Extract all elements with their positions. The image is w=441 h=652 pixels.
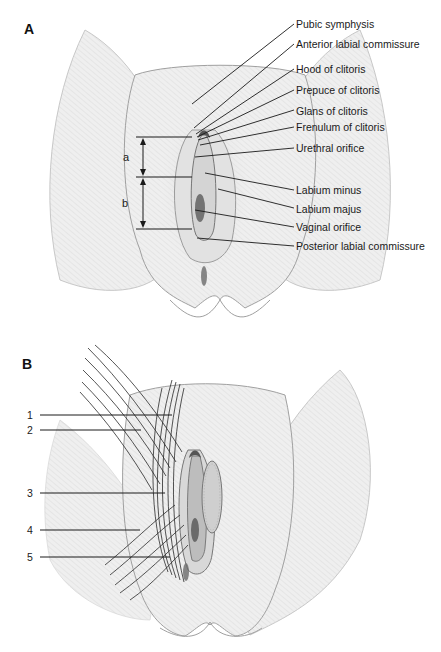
label-frenulum-of-clitoris: Frenulum of clitoris — [296, 121, 385, 133]
number-5: 5 — [27, 551, 33, 563]
label-urethral-orifice: Urethral orifice — [296, 142, 364, 154]
label-anterior-labial-commissure: Anterior labial commissure — [296, 38, 420, 50]
label-posterior-labial-commissure: Posterior labial commissure — [296, 240, 425, 252]
label-glans-of-clitoris: Glans of clitoris — [296, 105, 368, 117]
panel-a-letter: A — [24, 21, 34, 37]
label-prepuce-of-clitoris: Prepuce of clitoris — [296, 84, 379, 96]
panel-b-figure — [40, 345, 370, 636]
panel-b-letter: B — [22, 356, 32, 372]
label-pubic-symphysis: Pubic symphysis — [296, 18, 374, 30]
number-4: 4 — [27, 524, 33, 536]
number-1: 1 — [27, 409, 33, 421]
anatomical-illustration — [0, 0, 441, 652]
number-3: 3 — [27, 487, 33, 499]
label-hood-of-clitoris: Hood of clitoris — [296, 63, 365, 75]
dimension-a-label: a — [123, 151, 129, 163]
number-2: 2 — [27, 424, 33, 436]
label-vaginal-orifice: Vaginal orifice — [296, 221, 361, 233]
label-labium-minus: Labium minus — [296, 184, 361, 196]
dimension-b-label: b — [122, 197, 128, 209]
label-labium-majus: Labium majus — [296, 203, 361, 215]
